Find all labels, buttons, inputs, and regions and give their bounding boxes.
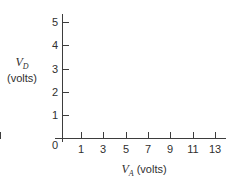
x-tick-label-11: 11 [183, 144, 203, 155]
y-tick-label-4: 4 [42, 40, 58, 51]
x-tick-label-9: 9 [160, 144, 180, 155]
x-tick-label-13: 13 [205, 144, 225, 155]
y-tick-2 [62, 92, 69, 93]
x-tick-7 [148, 132, 149, 139]
x-tick-5 [126, 132, 127, 139]
x-tick-13 [215, 132, 216, 139]
y-axis-symbol: V [15, 55, 22, 69]
x-tick-9 [170, 132, 171, 139]
y-tick-label-2: 2 [42, 87, 58, 98]
x-tick-label-5: 5 [116, 144, 136, 155]
x-tick-label-7: 7 [138, 144, 158, 155]
y-tick-label-5: 5 [42, 17, 58, 28]
x-axis-title: VA (volts) [62, 162, 226, 179]
y-tick-label-3: 3 [42, 64, 58, 75]
x-tick-3 [0, 132, 1, 139]
x-tick-label-1: 1 [71, 144, 91, 155]
y-tick-3 [62, 69, 69, 70]
y-tick-4 [62, 45, 69, 46]
x-tick-3 [103, 132, 104, 139]
plot-area [63, 14, 226, 138]
x-tick-11 [193, 132, 194, 139]
x-tick-label-3: 3 [93, 144, 113, 155]
y-tick-1 [62, 115, 69, 116]
x-tick-1 [81, 132, 82, 139]
graph-figure: 5 4 3 2 1 0 1 3 5 7 9 11 13 VD (volts) V… [0, 0, 233, 183]
y-axis-title-symbol-line: VD [4, 55, 40, 72]
x-axis-units-text: (volts) [137, 163, 167, 175]
y-axis-subscript: D [23, 62, 29, 71]
y-axis-title: VD (volts) [4, 55, 40, 86]
y-tick-5 [62, 22, 69, 23]
y-tick-label-1: 1 [42, 110, 58, 121]
y-axis-units: (volts) [4, 72, 40, 86]
x-axis-symbol: V [121, 162, 128, 176]
origin-label: 0 [42, 140, 58, 151]
